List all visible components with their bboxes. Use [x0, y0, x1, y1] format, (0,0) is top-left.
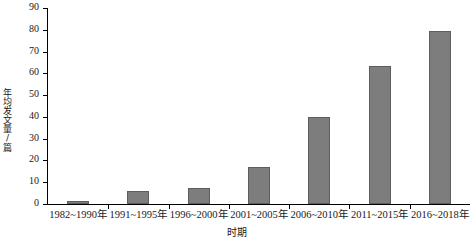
x-tick-label: 2016~2018年 [410, 208, 470, 222]
x-tick-label: 2006~2010年 [289, 208, 349, 222]
y-tick: 30 [0, 139, 48, 140]
x-tick-label: 1982~1990年 [48, 208, 108, 222]
y-tick: 50 [0, 95, 48, 96]
bar-chart: 年均发文量/篇 0102030405060708090 1982~1990年19… [0, 0, 473, 245]
x-axis-title: 时期 [0, 226, 473, 239]
y-axis-title: 年均发文量/篇 [0, 60, 14, 180]
y-tick-label: 20 [29, 153, 39, 165]
y-tick-label: 80 [29, 23, 39, 35]
y-tick: 80 [0, 30, 48, 31]
y-tick: 10 [0, 182, 48, 183]
x-axis-tick-labels: 1982~1990年1991~1995年1996~2000年2001~2005年… [22, 208, 473, 224]
bar [67, 201, 89, 204]
x-axis-line [47, 204, 470, 205]
y-tick: 20 [0, 160, 48, 161]
y-tick: 60 [0, 73, 48, 74]
y-tick: 70 [0, 52, 48, 53]
y-tick: 0 [0, 204, 48, 205]
y-tick-mark [43, 204, 48, 205]
bar [429, 31, 451, 204]
bar [308, 117, 330, 204]
y-tick-label: 90 [29, 1, 39, 13]
x-tick-label: 1991~1995年 [108, 208, 168, 222]
bar [127, 191, 149, 204]
y-tick-label: 10 [29, 175, 39, 187]
bar [369, 66, 391, 204]
x-tick-label: 2011~2015年 [349, 208, 409, 222]
x-tick-label: 2001~2005年 [229, 208, 289, 222]
bars-layer [48, 8, 470, 204]
y-tick-label: 40 [29, 110, 39, 122]
y-tick-label: 70 [29, 45, 39, 57]
y-tick-label: 30 [29, 132, 39, 144]
x-tick-label: 1996~2000年 [169, 208, 229, 222]
bar [248, 167, 270, 204]
y-tick-label: 50 [29, 88, 39, 100]
bar [188, 188, 210, 204]
y-tick: 40 [0, 117, 48, 118]
y-tick: 90 [0, 8, 48, 9]
y-tick-label: 60 [29, 66, 39, 78]
